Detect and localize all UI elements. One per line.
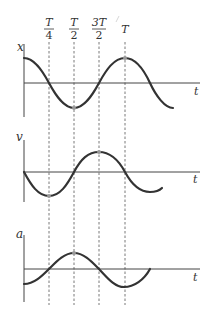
acceleration-curve (24, 253, 150, 287)
label-period: T (121, 23, 130, 36)
svg-text:t: t (194, 85, 199, 98)
svg-text:2: 2 (96, 29, 103, 42)
svg-text:3T: 3T (92, 16, 108, 29)
svg-text:T: T (45, 16, 54, 29)
svg-text:x: x (17, 40, 24, 54)
svg-text:4: 4 (46, 29, 53, 42)
svg-text:T: T (121, 23, 130, 36)
label-half-period: T 2 (69, 16, 79, 42)
velocity-curve (24, 152, 162, 196)
svg-text:a: a (16, 227, 23, 241)
graph-velocity: v t (16, 130, 200, 202)
svg-text:t: t (193, 271, 198, 284)
max-marker (72, 251, 76, 255)
label-quarter-period: T 4 (44, 16, 54, 42)
svg-text:t: t (193, 173, 198, 186)
svg-text:2: 2 (71, 29, 78, 42)
label-three-half-period: 3T 2 (92, 16, 108, 42)
min-marker (47, 194, 51, 198)
min-marker (72, 106, 76, 110)
artifact-mark (116, 16, 119, 22)
graph-displacement: x t (17, 40, 200, 117)
shm-diagram: T 4 T 2 3T 2 T x t (0, 0, 208, 318)
svg-text:T: T (70, 16, 79, 29)
guide-lines (49, 42, 125, 305)
graph-acceleration: a t (16, 227, 200, 302)
max-marker (123, 56, 127, 60)
max-marker (97, 150, 101, 154)
svg-text:v: v (16, 130, 23, 144)
